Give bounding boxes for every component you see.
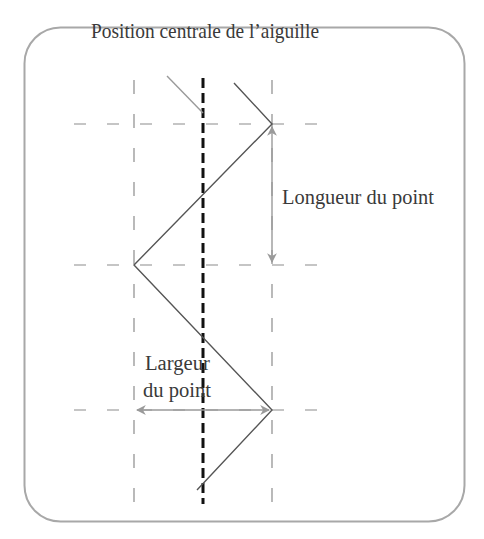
- diagram-frame: [25, 28, 465, 522]
- stitch-length-label: Longueur du point: [282, 186, 434, 209]
- title-label: Position centrale de l’aiguille: [91, 19, 319, 43]
- stitch-width-label-line2: du point: [143, 379, 211, 402]
- previous-stitch-line: [167, 76, 203, 113]
- zigzag-stitch-diagram: Position centrale de l’aiguille Longueur…: [0, 0, 484, 539]
- stitch-width-label-line1: Largeur: [145, 352, 210, 375]
